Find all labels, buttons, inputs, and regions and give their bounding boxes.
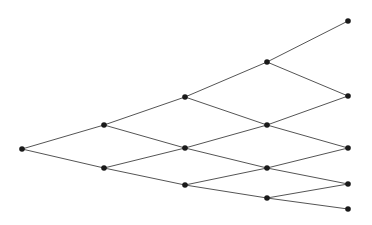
tree-edge-n3b-n4c [267, 125, 348, 148]
tree-edge-n1b-n2c [104, 168, 185, 185]
tree-edge-n3c-n4d [267, 168, 348, 184]
tree-node-n4b [345, 93, 351, 99]
tree-node-n0 [19, 146, 25, 152]
tree-node-n2a [182, 94, 188, 100]
tree-edge-n1b-n2b [104, 148, 185, 168]
tree-nodes [19, 18, 351, 212]
tree-edge-n1a-n2b [104, 125, 185, 148]
tree-edge-n2a-n3b [185, 97, 267, 125]
tree-diagram [0, 0, 372, 225]
tree-node-n2b [182, 145, 188, 151]
tree-edge-n3d-n4d [267, 184, 348, 198]
tree-node-n2c [182, 182, 188, 188]
tree-edge-n2a-n3a [185, 62, 267, 97]
tree-edges [22, 21, 348, 209]
tree-edge-n2b-n3b [185, 125, 267, 148]
tree-node-n4a [345, 18, 351, 24]
tree-node-n3b [264, 122, 270, 128]
tree-edge-n3a-n4b [267, 62, 348, 96]
tree-node-n3c [264, 165, 270, 171]
tree-node-n1b [101, 165, 107, 171]
tree-node-n1a [101, 122, 107, 128]
tree-edge-n0-n1a [22, 125, 104, 149]
tree-diagram-svg [0, 0, 372, 225]
tree-edge-n2b-n3c [185, 148, 267, 168]
tree-edge-n3b-n4b [267, 96, 348, 125]
tree-node-n3a [264, 59, 270, 65]
tree-node-n3d [264, 195, 270, 201]
tree-edge-n3a-n4a [267, 21, 348, 62]
tree-edge-n2c-n3d [185, 185, 267, 198]
tree-edge-n3c-n4c [267, 148, 348, 168]
tree-edge-n3d-n4e [267, 198, 348, 209]
tree-node-n4c [345, 145, 351, 151]
tree-node-n4e [345, 206, 351, 212]
tree-node-n4d [345, 181, 351, 187]
tree-edge-n0-n1b [22, 149, 104, 168]
tree-edge-n1a-n2a [104, 97, 185, 125]
tree-edge-n2c-n3c [185, 168, 267, 185]
